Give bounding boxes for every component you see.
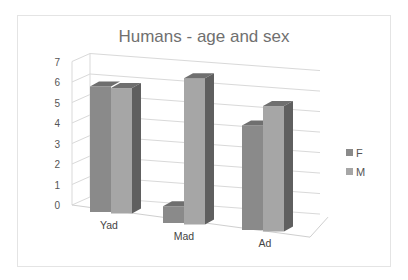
y-tick-label: 0 xyxy=(54,200,60,211)
chart-legend: F M xyxy=(346,143,365,181)
bar-yad-m xyxy=(111,88,132,213)
legend-item-f: F xyxy=(346,143,365,162)
y-tick-label: 7 xyxy=(54,57,60,68)
legend-swatch-m xyxy=(346,168,353,175)
x-category-label: Ad xyxy=(259,237,272,249)
bar-yad-f xyxy=(90,87,111,212)
y-tick-label: 2 xyxy=(54,159,60,170)
legend-item-m: M xyxy=(346,162,365,181)
y-tick-label: 3 xyxy=(54,139,60,150)
bar-mad-m xyxy=(184,78,205,224)
y-tick-label: 6 xyxy=(54,77,60,88)
bar-ad-m xyxy=(263,106,284,231)
chart-plot-area: 01234567YadMadAd xyxy=(0,0,408,280)
x-category-label: Yad xyxy=(100,219,118,231)
legend-swatch-f xyxy=(346,149,353,156)
legend-label-m: M xyxy=(356,166,365,178)
x-category-label: Mad xyxy=(174,230,195,242)
legend-label-f: F xyxy=(356,147,363,159)
y-tick-label: 4 xyxy=(54,118,60,129)
y-tick-label: 5 xyxy=(54,98,60,109)
bar-mad-f xyxy=(163,206,184,223)
y-tick-label: 1 xyxy=(54,180,60,191)
bar-ad-f xyxy=(242,125,263,230)
